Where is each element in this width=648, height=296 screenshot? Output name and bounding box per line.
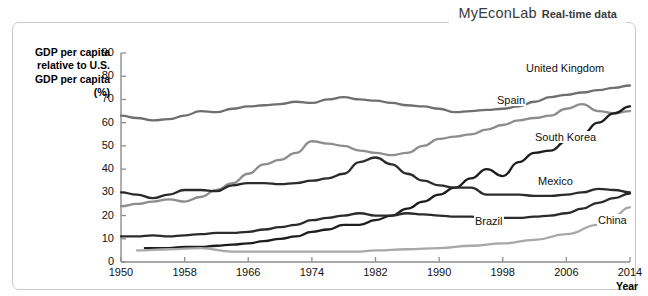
- series-label-south-korea: South Korea: [534, 131, 597, 143]
- x-tick-label: 1958: [162, 266, 208, 278]
- chart-screenshot: MyEconLab Real-time data GDP per capita …: [0, 0, 648, 296]
- y-tick-label: 20: [92, 209, 114, 221]
- x-tick-label: 1974: [289, 266, 335, 278]
- x-tick-label: 2006: [543, 266, 589, 278]
- x-tick-label: 1966: [225, 266, 271, 278]
- series-label-spain: Spain: [496, 94, 526, 106]
- y-tick-label: 90: [92, 46, 114, 58]
- x-tick-label: 1950: [98, 266, 144, 278]
- series-label-mexico: Mexico: [537, 175, 574, 187]
- y-tick-label: 80: [92, 69, 114, 81]
- y-tick-label: 70: [92, 92, 114, 104]
- y-tick-label: 40: [92, 162, 114, 174]
- y-tick-label: 60: [92, 116, 114, 128]
- realtime-data-label: Real-time data: [542, 8, 617, 20]
- line-chart-svg: [121, 53, 630, 262]
- series-label-china: China: [597, 214, 628, 226]
- plot-area: [121, 53, 630, 262]
- x-tick-label: 1990: [416, 266, 462, 278]
- series-line-brazil: [121, 193, 630, 236]
- y-tick-label: 30: [92, 185, 114, 197]
- myeconlab-brand-label: MyEconLab: [458, 5, 536, 21]
- x-tick-label: 2014: [607, 266, 648, 278]
- x-tick-label: 1982: [353, 266, 399, 278]
- x-axis-title: Year: [616, 280, 638, 292]
- y-tick-label: 50: [92, 139, 114, 151]
- series-label-united-kingdom: United Kingdom: [525, 62, 605, 74]
- series-label-brazil: Brazil: [474, 215, 504, 227]
- y-tick-label: 10: [92, 232, 114, 244]
- x-tick-label: 1998: [480, 266, 526, 278]
- myeconlab-banner: MyEconLab Real-time data: [449, 5, 626, 27]
